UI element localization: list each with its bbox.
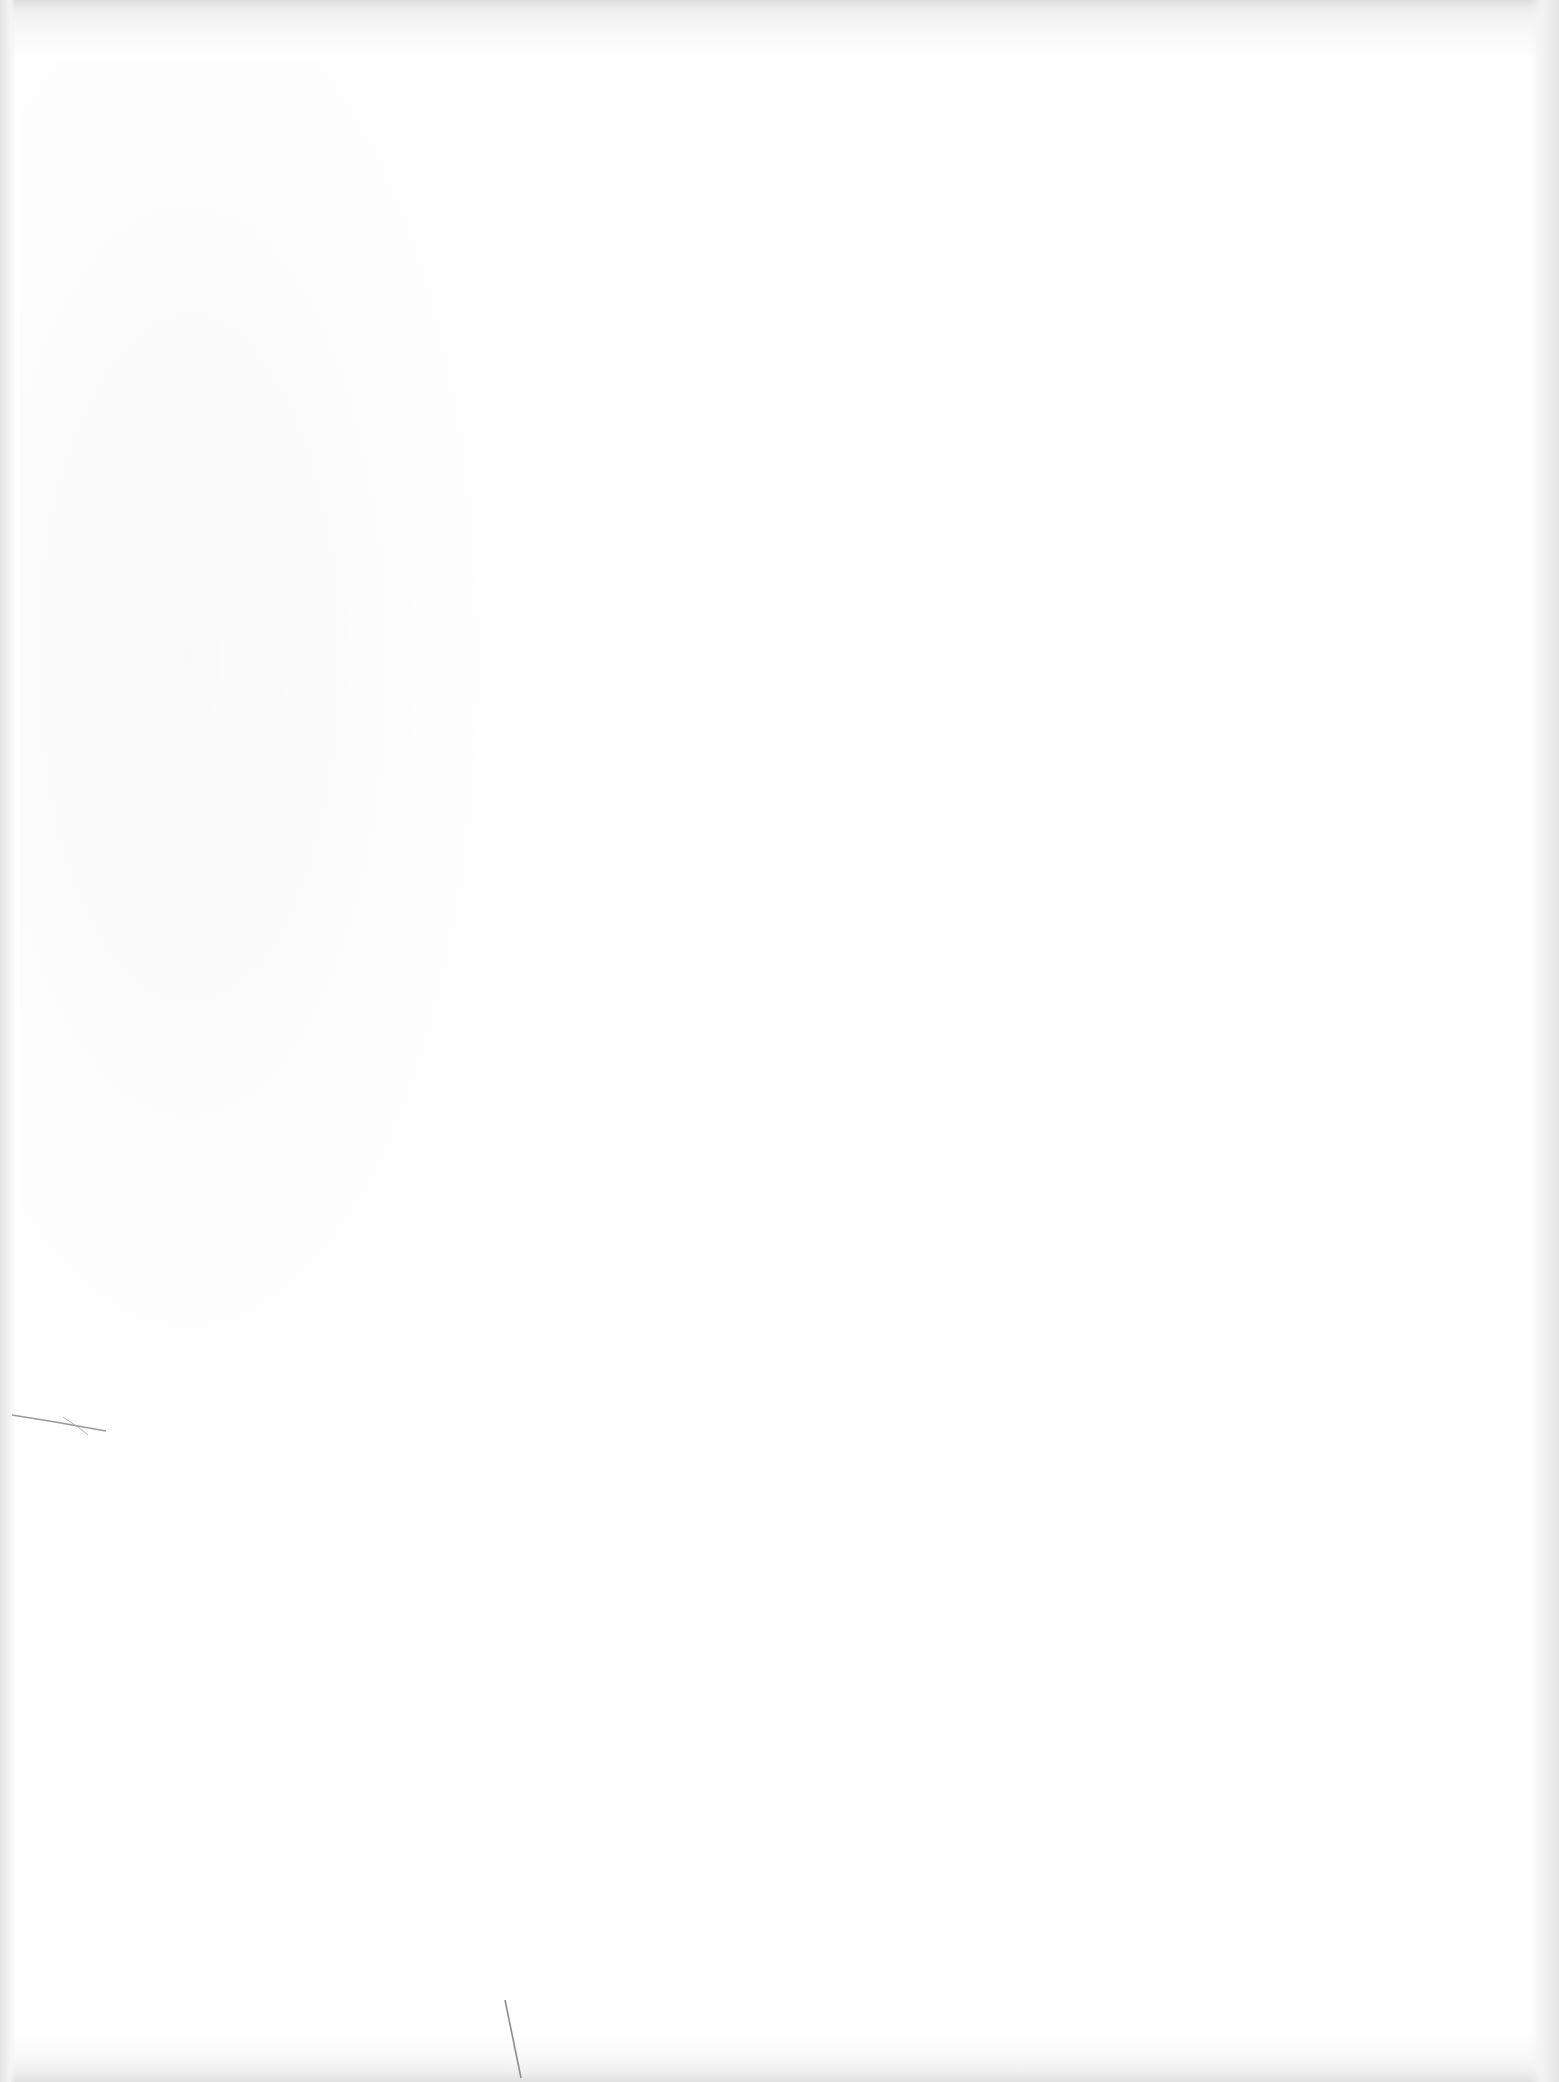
left-edge-shadow — [0, 0, 16, 2082]
bleed-through-haze — [20, 60, 580, 1560]
bottom-edge-shadow — [0, 2032, 1559, 2082]
blank-paper-page — [0, 0, 1559, 2082]
top-edge-shadow — [0, 0, 1559, 60]
paper-fiber-mark — [8, 1405, 108, 1445]
paper-scratch-mark — [495, 2000, 535, 2082]
right-edge-shadow — [1529, 0, 1559, 2082]
